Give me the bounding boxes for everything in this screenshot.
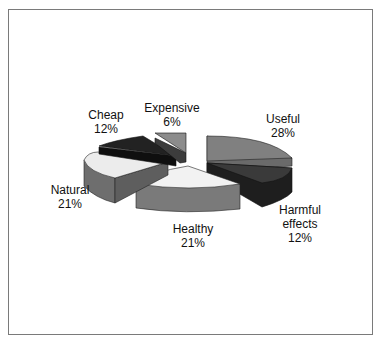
label-cheap: Cheap 12% xyxy=(76,108,136,136)
label-natural: Natural 21% xyxy=(40,183,100,211)
label-useful: Useful 28% xyxy=(253,112,313,140)
pie-chart xyxy=(0,0,381,347)
label-healthy: Healthy 21% xyxy=(163,222,223,250)
label-harmful-effects: Harmful effects 12% xyxy=(270,203,330,245)
label-expensive: Expensive 6% xyxy=(137,101,207,129)
